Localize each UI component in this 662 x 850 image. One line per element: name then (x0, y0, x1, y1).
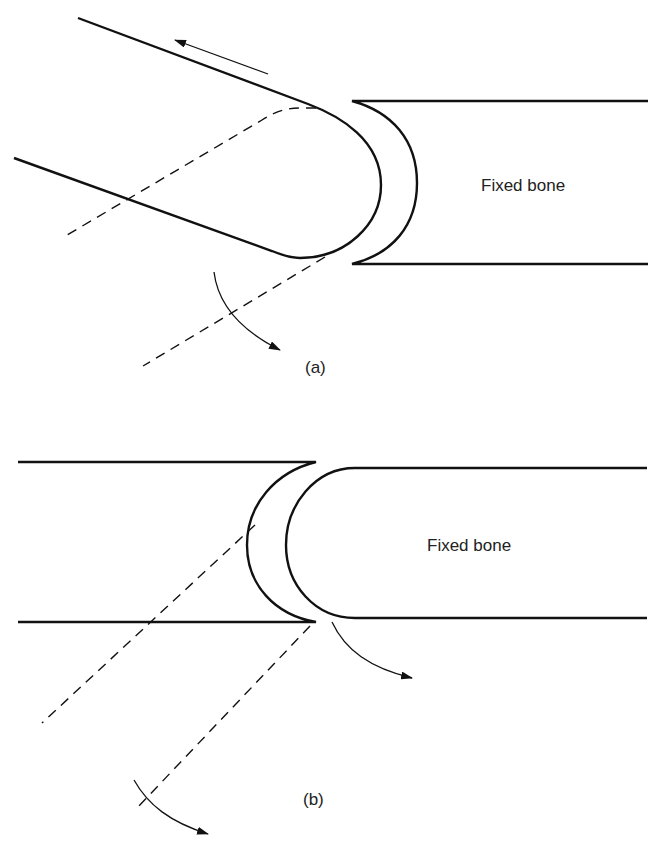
caption-b: (b) (303, 790, 324, 810)
dashed-displaced-bone-b (42, 525, 255, 723)
sliding-arrow (175, 40, 268, 74)
dashed-displaced-bone-a-lower (143, 257, 325, 366)
rotation-arrow-a (214, 272, 280, 350)
fixed-bone-label-b: Fixed bone (427, 536, 511, 556)
rotation-arrow-b-right (332, 622, 412, 678)
joint-motion-diagram (0, 0, 662, 850)
moving-bone-concave (18, 462, 316, 622)
fixed-bone-label-a: Fixed bone (481, 176, 565, 196)
rotation-arrow-b-lower (134, 780, 208, 834)
dashed-displaced-bone-b-lower (137, 626, 310, 808)
dashed-displaced-bone-a (62, 108, 316, 238)
panel-b (18, 462, 647, 834)
moving-bone-convex (14, 18, 381, 258)
caption-a: (a) (305, 358, 326, 378)
